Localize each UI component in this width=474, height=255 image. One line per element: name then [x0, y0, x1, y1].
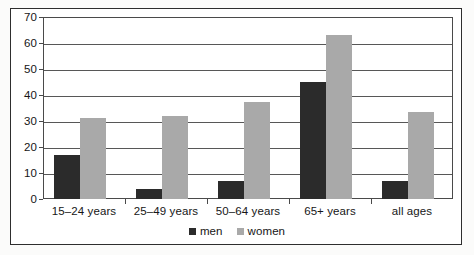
chart-legend: menwomen [11, 225, 463, 237]
bar-men[interactable] [300, 82, 326, 199]
x-axis-label-2: 25–49 years [134, 205, 198, 217]
bar-men[interactable] [218, 181, 244, 199]
x-tick-mark-2 [207, 199, 208, 204]
bar-women[interactable] [244, 102, 270, 200]
bars-layer [43, 17, 453, 199]
legend-label-women: women [248, 225, 286, 237]
bar-group [125, 17, 207, 199]
legend-item-men[interactable]: men [189, 225, 223, 237]
y-tick-label-60: 60 [24, 37, 37, 49]
y-tick-label-40: 40 [24, 89, 37, 101]
x-axis-label-1: 15–24 years [52, 205, 116, 217]
bar-men[interactable] [382, 181, 408, 199]
bar-group [371, 17, 453, 199]
legend-item-women[interactable]: women [237, 225, 286, 237]
y-tick-label-20: 20 [24, 141, 37, 153]
chart-figure-frame: 010203040506070 15–24 years25–49 years50… [10, 8, 462, 245]
y-tick-label-30: 30 [24, 115, 37, 127]
bar-women[interactable] [80, 118, 106, 199]
x-axis-label-4: 65+ years [304, 205, 356, 217]
bar-women[interactable] [326, 35, 352, 199]
x-tick-mark-3 [289, 199, 290, 204]
bar-men[interactable] [54, 155, 80, 199]
x-axis-label-3: 50–64 years [216, 205, 280, 217]
bar-group [43, 17, 125, 199]
bar-men[interactable] [136, 189, 162, 199]
chart-plot-wrapper: 010203040506070 15–24 years25–49 years50… [11, 9, 461, 244]
bar-group [289, 17, 371, 199]
x-tick-mark-1 [125, 199, 126, 204]
y-tick-label-50: 50 [24, 63, 37, 75]
y-tick-label-0: 0 [31, 193, 38, 205]
y-axis-tick-labels: 010203040506070 [11, 17, 37, 199]
legend-swatch-men-icon [189, 228, 196, 235]
bar-women[interactable] [162, 116, 188, 199]
x-axis-label-5: all ages [392, 205, 432, 217]
page-background: 010203040506070 15–24 years25–49 years50… [0, 0, 474, 255]
y-tick-label-70: 70 [24, 11, 37, 23]
legend-label-men: men [200, 225, 223, 237]
y-tick-label-10: 10 [24, 167, 37, 179]
bar-women[interactable] [408, 112, 434, 199]
x-axis-category-labels: 15–24 years25–49 years50–64 years65+ yea… [43, 205, 453, 223]
legend-swatch-women-icon [237, 228, 244, 235]
bar-group [207, 17, 289, 199]
x-tick-mark-4 [371, 199, 372, 204]
